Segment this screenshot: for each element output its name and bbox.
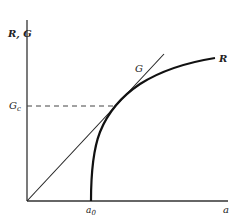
y-axis-label: R, G <box>7 28 32 40</box>
r-curve-label: R <box>218 53 227 64</box>
r-curve-diagram: R, G Gc G R a0 a <box>0 0 242 221</box>
r-curve <box>91 58 215 201</box>
x-axis-label: a <box>223 204 229 215</box>
g-line-label: G <box>135 63 143 74</box>
gc-label: Gc <box>9 100 21 113</box>
g-line <box>27 54 164 201</box>
a0-label: a0 <box>86 205 96 217</box>
